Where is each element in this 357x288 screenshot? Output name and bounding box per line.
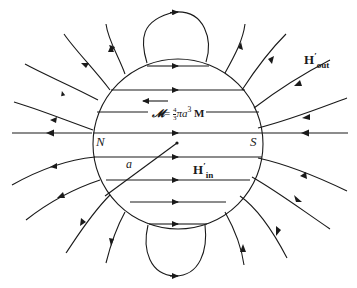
top-loop xyxy=(143,12,208,63)
center-dot xyxy=(175,141,178,144)
exterior-field-lines-left xyxy=(12,24,125,263)
south-pole-label: S xyxy=(250,135,257,148)
bottom-loop xyxy=(146,225,205,276)
radius-line xyxy=(105,143,177,196)
field-diagram xyxy=(0,0,357,288)
moment-equation: 𝓜= 43πa3 M xyxy=(150,106,206,122)
radius-label: a xyxy=(126,158,132,170)
h-out-label: H′out xyxy=(304,52,329,70)
exterior-arrowheads xyxy=(46,42,310,252)
exterior-field-lines-right xyxy=(225,24,348,265)
interior-field-lines xyxy=(93,66,263,224)
h-in-label: H′in xyxy=(193,162,213,180)
north-pole-label: N xyxy=(96,135,105,148)
